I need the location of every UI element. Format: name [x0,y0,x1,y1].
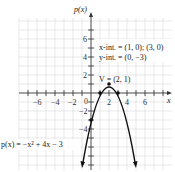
y-intercept-point [89,118,93,122]
x-tick-label: −4 [51,98,60,107]
y-tick-label: 6 [83,35,87,44]
x-intercept-annotation: x-int. = (1, 0); (3, 0) [99,43,164,52]
y-tick-label: −2 [79,107,88,116]
y-intercept-annotation: y-int. = (0, −3) [99,53,147,62]
x-tick-label: 4 [125,98,129,107]
vertex-annotation: V = (2, 1) [99,75,131,84]
x-intercept-point [98,91,102,95]
x-axis-label: x [166,96,171,105]
x-tick-label: −6 [33,98,42,107]
y-tick-label: −4 [79,125,88,134]
x-tick-label: −2 [68,98,77,107]
x-tick-label: 6 [143,98,147,107]
curve-arrow-left-icon [81,161,86,168]
origin-label: 0 [84,97,88,106]
parabola-chart: −6 −4 −2 0 2 4 6 6 4 2 −2 −4 p(x) x x-in… [0,0,175,172]
equation-label: p(x) = −x² + 4x − 3 [1,140,63,149]
x-axis-arrow-icon [167,91,172,95]
y-tick-label: 2 [83,71,87,80]
y-axis-label: p(x) [73,5,87,14]
y-tick-label: 4 [83,53,87,62]
x-tick-label: 2 [107,98,111,107]
x-intercept-point [116,91,120,95]
curve-arrow-right-icon [133,161,138,168]
y-axis-arrow-icon [89,12,93,17]
